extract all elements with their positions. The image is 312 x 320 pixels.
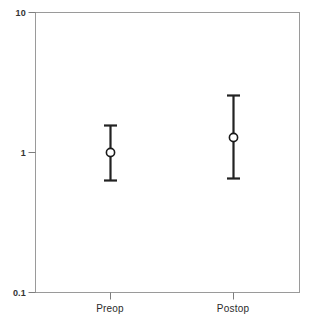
y-axis-label-mid: 1	[0, 149, 26, 158]
y-axis-label-bottom: 0.1	[0, 289, 26, 298]
x-axis-label-preop: Preop	[96, 304, 124, 314]
error-bar-chart: 10 1 0.1 Preop Postop	[0, 0, 312, 320]
y-axis-label-top: 10	[0, 9, 26, 18]
errorbar-postop	[227, 96, 240, 179]
plot-frame	[36, 13, 300, 293]
data-point-postop	[229, 133, 237, 141]
errorbar-preop	[104, 126, 117, 181]
chart-canvas	[0, 0, 312, 320]
data-point-preop	[106, 148, 114, 156]
x-axis-label-postop: Postop	[217, 304, 249, 314]
